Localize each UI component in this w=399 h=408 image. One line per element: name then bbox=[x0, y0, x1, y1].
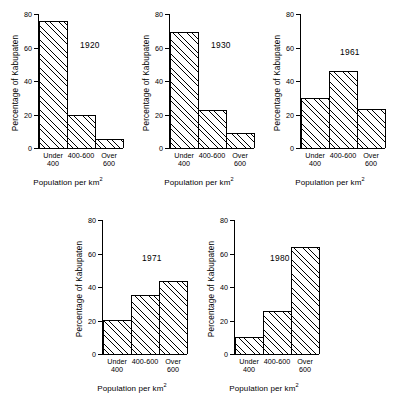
x-axis-line bbox=[169, 148, 254, 149]
x-axis-line bbox=[38, 148, 123, 149]
y-axis-tick bbox=[34, 48, 38, 49]
bar bbox=[329, 71, 358, 148]
y-axis-tick-label: 60 bbox=[155, 44, 163, 51]
x-axis-category-label: Over 600 bbox=[226, 152, 254, 169]
x-axis-line bbox=[300, 148, 385, 149]
y-axis-tick bbox=[34, 115, 38, 116]
bar-group bbox=[103, 220, 187, 354]
x-axis-line bbox=[234, 354, 319, 355]
y-axis-tick bbox=[165, 115, 169, 116]
plot-area: 020406080 bbox=[300, 14, 384, 149]
x-axis-category-label: Under 400 bbox=[39, 152, 67, 169]
x-axis-category-label: 400-600 bbox=[263, 358, 291, 375]
y-axis-tick bbox=[98, 321, 102, 322]
bar bbox=[291, 247, 320, 354]
y-axis-tick bbox=[296, 148, 300, 149]
y-axis-tick bbox=[34, 81, 38, 82]
y-axis-tick-label: 40 bbox=[286, 78, 294, 85]
y-axis-tick-label: 20 bbox=[24, 111, 32, 118]
plot-area: 020406080 bbox=[38, 14, 122, 149]
y-axis-tick-label: 20 bbox=[88, 317, 96, 324]
x-axis-category-label: Over 600 bbox=[291, 358, 319, 375]
year-annotation: 1961 bbox=[340, 47, 360, 57]
x-axis-category-label: 400-600 bbox=[329, 152, 357, 169]
y-axis-tick bbox=[34, 14, 38, 15]
y-axis-tick bbox=[230, 287, 234, 288]
y-axis-tick-label: 60 bbox=[286, 44, 294, 51]
bar bbox=[198, 110, 227, 148]
bar bbox=[235, 337, 264, 354]
x-axis-category-labels: Under 400400-600Over 600 bbox=[103, 358, 187, 375]
chart-panel-1980: Percentage of Kabupaten020406080Under 40… bbox=[198, 208, 330, 408]
x-axis-category-labels: Under 400400-600Over 600 bbox=[235, 358, 319, 375]
y-axis-tick-label: 40 bbox=[24, 78, 32, 85]
x-axis-title-text: Population per km bbox=[97, 384, 163, 393]
x-axis-title: Population per km2 bbox=[133, 178, 265, 187]
bar-group bbox=[235, 220, 319, 354]
y-axis-tick bbox=[230, 254, 234, 255]
y-axis-tick bbox=[98, 254, 102, 255]
y-axis-tick bbox=[165, 148, 169, 149]
y-axis-tick-label: 40 bbox=[155, 78, 163, 85]
y-axis-tick bbox=[230, 220, 234, 221]
x-axis-title-exponent: 2 bbox=[99, 176, 102, 182]
y-axis-tick-label: 60 bbox=[220, 250, 228, 257]
y-axis-tick-label: 0 bbox=[224, 351, 228, 358]
chart-panel-1961: Percentage of Kabupaten020406080Under 40… bbox=[264, 2, 396, 202]
bar bbox=[263, 311, 292, 354]
x-axis-title: Population per km2 bbox=[66, 384, 198, 393]
y-axis-title: Percentage of Kabupaten bbox=[141, 20, 152, 146]
y-axis-tick-label: 80 bbox=[220, 217, 228, 224]
y-axis-tick bbox=[98, 220, 102, 221]
x-axis-category-label: Over 600 bbox=[159, 358, 187, 375]
y-axis-tick bbox=[34, 148, 38, 149]
y-axis-title: Percentage of Kabupaten bbox=[10, 20, 21, 146]
y-axis-tick-label: 0 bbox=[159, 145, 163, 152]
plot-area: 020406080 bbox=[102, 220, 186, 355]
x-axis-title: Population per km2 bbox=[2, 178, 134, 187]
y-axis-title: Percentage of Kabupaten bbox=[206, 226, 217, 352]
x-axis-title: Population per km2 bbox=[198, 384, 330, 393]
x-axis-category-label: Under 400 bbox=[301, 152, 329, 169]
y-axis-title: Percentage of Kabupaten bbox=[272, 20, 283, 146]
y-axis-tick-label: 80 bbox=[286, 11, 294, 18]
x-axis-category-labels: Under 400400-600Over 600 bbox=[170, 152, 254, 169]
y-axis-tick-label: 60 bbox=[88, 250, 96, 257]
y-axis-tick bbox=[296, 81, 300, 82]
y-axis-tick-label: 80 bbox=[24, 11, 32, 18]
x-axis-category-label: Under 400 bbox=[103, 358, 131, 375]
bar bbox=[131, 295, 160, 354]
chart-panel-1930: Percentage of Kabupaten020406080Under 40… bbox=[133, 2, 265, 202]
bar bbox=[357, 109, 386, 148]
year-annotation: 1971 bbox=[142, 253, 162, 263]
y-axis-tick bbox=[98, 354, 102, 355]
y-axis-tick-label: 80 bbox=[88, 217, 96, 224]
x-axis-category-label: 400-600 bbox=[131, 358, 159, 375]
bar-group bbox=[39, 14, 123, 148]
y-axis-tick bbox=[296, 48, 300, 49]
y-axis-title: Percentage of Kabupaten bbox=[74, 226, 85, 352]
y-axis-tick bbox=[296, 115, 300, 116]
x-axis-line bbox=[102, 354, 187, 355]
y-axis-tick-label: 20 bbox=[286, 111, 294, 118]
y-axis-tick-label: 40 bbox=[220, 284, 228, 291]
bar bbox=[159, 281, 188, 354]
y-axis-tick-label: 40 bbox=[88, 284, 96, 291]
x-axis-title: Population per km2 bbox=[264, 178, 396, 187]
x-axis-category-labels: Under 400400-600Over 600 bbox=[301, 152, 385, 169]
plot-area: 020406080 bbox=[169, 14, 253, 149]
bar bbox=[170, 32, 199, 148]
y-axis-tick-label: 20 bbox=[155, 111, 163, 118]
year-annotation: 1930 bbox=[211, 40, 231, 50]
bar bbox=[226, 133, 255, 148]
x-axis-category-label: Under 400 bbox=[235, 358, 263, 375]
y-axis-tick-label: 20 bbox=[220, 317, 228, 324]
x-axis-category-label: Under 400 bbox=[170, 152, 198, 169]
x-axis-category-labels: Under 400400-600Over 600 bbox=[39, 152, 123, 169]
y-axis-tick-label: 80 bbox=[155, 11, 163, 18]
chart-panel-1971: Percentage of Kabupaten020406080Under 40… bbox=[66, 208, 198, 408]
bar bbox=[95, 139, 124, 148]
bar bbox=[301, 98, 330, 148]
small-multiples-figure: Percentage of Kabupaten020406080Under 40… bbox=[0, 0, 399, 408]
plot-area: 020406080 bbox=[234, 220, 318, 355]
